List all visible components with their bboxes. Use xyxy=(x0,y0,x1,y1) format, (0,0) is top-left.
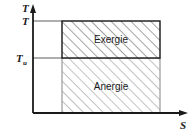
y-axis-arrow-icon xyxy=(30,4,36,13)
tick-label-tu-subscript: u xyxy=(23,59,27,67)
tick-label-tu: T u xyxy=(16,52,27,67)
x-axis-title: S xyxy=(180,119,186,131)
tick-label-t: T xyxy=(22,15,30,27)
ts-diagram-exergy-anergy: T T T u S Exergie Anergie xyxy=(0,0,196,136)
y-axis-title: T xyxy=(22,2,30,14)
anergie-label: Anergie xyxy=(94,81,129,92)
x-axis-arrow-icon xyxy=(179,110,188,116)
ts-diagram-canvas: T T T u S Exergie Anergie xyxy=(0,0,196,136)
exergie-label: Exergie xyxy=(94,34,128,45)
